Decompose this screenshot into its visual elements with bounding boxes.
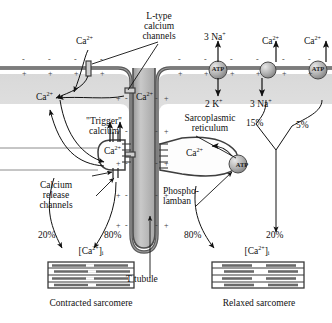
tubule-charge-lumen-right-0: - [155, 95, 158, 103]
percent-left-80-label: 80% [104, 230, 121, 240]
ca-exchanger-efflux-label: Ca2+ [262, 36, 279, 46]
sodium-potassium-atpase-text: ATP [205, 66, 231, 73]
t-tubule-label: T tubule [126, 274, 158, 284]
efflux-split-lines [256, 100, 322, 232]
tubule-charge-lumen-left-4: - [125, 222, 128, 230]
tubule-charge-left-4: + [116, 222, 121, 230]
tubule-charge-right-3: + [164, 192, 169, 200]
percent-right-80-label: 80% [184, 230, 201, 240]
membrane-charge-outer-7: - [204, 56, 207, 64]
membrane-charge-inner-5: + [178, 70, 183, 78]
tubule-charge-lumen-right-2: - [155, 160, 158, 168]
tubule-charge-right-4: + [164, 222, 169, 230]
membrane-charge-outer-0: - [22, 56, 25, 64]
sodium-calcium-exchanger [260, 62, 276, 78]
contracted-sarcomere-label: Contracted sarcomere [22, 298, 160, 308]
membrane-charge-inner-3: + [100, 70, 105, 78]
ca-concentration-left-label: [Ca2+]i [58, 246, 124, 256]
calcium-release-channels-label: Calcium release channels [26, 180, 86, 210]
membrane-charge-inner-0: + [22, 70, 27, 78]
membrane-charge-outer-2: - [74, 56, 77, 64]
sodium-efflux-label: 3 Na+ [204, 32, 226, 42]
tubule-charge-lumen-left-1: - [125, 128, 128, 136]
membrane-charge-outer-10: - [282, 56, 285, 64]
serca-pump-text: ATP [229, 162, 255, 169]
tubule-charge-lumen-right-3: - [155, 192, 158, 200]
membrane-charge-inner-2: + [74, 70, 79, 78]
l-type-calcium-channel-surface [86, 61, 91, 76]
membrane-charge-inner-1: + [48, 70, 53, 78]
tubule-charge-left-2: + [116, 160, 121, 168]
relaxed-sarcomere-label: Relaxed sarcomere [190, 298, 328, 308]
membrane-charge-outer-1: - [48, 56, 51, 64]
tubule-charge-lumen-right-4: - [155, 222, 158, 230]
percent-15-label: 15% [246, 118, 263, 128]
sodium-influx-label: 3 Na+ [250, 99, 272, 109]
membrane-charge-outer-9: - [256, 56, 259, 64]
myofibril-lines [0, 148, 98, 170]
membrane-charge-outer-11: - [308, 56, 311, 64]
phospholamban-leader [196, 172, 232, 206]
tubule-charge-right-0: + [164, 95, 169, 103]
tubule-charge-right-2: + [164, 160, 169, 168]
membrane-charge-outer-6: - [178, 56, 181, 64]
contracted-sarcomere-glyph [48, 262, 134, 288]
ca-atpase-efflux-label: Ca2+ [304, 36, 321, 46]
membrane-charge-outer-3: - [100, 56, 103, 64]
l-type-channels-label: L-type calcium channels [128, 11, 190, 41]
membrane-charge-inner-9: + [282, 70, 287, 78]
sarcoplasmic-reticulum-label: Sarcoplasmic reticulum [174, 113, 246, 133]
ca-sr-lumen-label: Ca2+ [186, 148, 203, 158]
potassium-influx-label: 2 K+ [205, 99, 222, 109]
ca-cytosol-entry-label: Ca2+ [36, 92, 53, 102]
membrane-charge-inner-8: + [256, 70, 261, 78]
calcium-atpase-sarcolemma-text: ATP [305, 66, 331, 73]
tubule-charge-left-1: + [116, 128, 121, 136]
tubule-charge-lumen-right-1: - [155, 128, 158, 136]
tubule-charge-lumen-left-2: - [125, 160, 128, 168]
tubule-charge-left-0: + [116, 95, 121, 103]
ca-concentration-right-label: [Ca2+]i [224, 246, 290, 256]
ca-junction-label: Ca2+ [104, 146, 121, 156]
percent-right-20-label: 20% [266, 230, 283, 240]
relaxed-sarcomere-glyph [212, 262, 304, 288]
ca-extracellular-label: Ca2+ [76, 36, 93, 46]
percent-5-label: 5% [296, 120, 309, 130]
tubule-charge-lumen-left-3: - [125, 192, 128, 200]
figure-canvas: L-type calcium channels Ca2+ Ca2+ "Trigg… [0, 0, 332, 323]
tubule-charge-lumen-left-0: - [125, 95, 128, 103]
release-channel-leader [92, 172, 114, 196]
ca-tubule-label: Ca2+ [136, 92, 153, 102]
percent-left-20-label: 20% [38, 230, 55, 240]
tubule-charge-left-3: + [116, 192, 121, 200]
tubule-charge-right-1: + [164, 128, 169, 136]
membrane-charge-outer-8: - [230, 56, 233, 64]
